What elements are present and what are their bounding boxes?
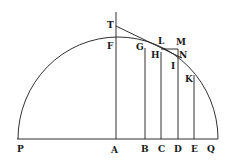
label-A: A: [110, 145, 119, 155]
label-T: T: [107, 20, 114, 30]
label-E: E: [191, 144, 198, 154]
label-I: I: [171, 61, 175, 71]
label-Q: Q: [207, 144, 215, 154]
label-F: F: [107, 41, 114, 51]
tangent-line-TN: [116, 26, 182, 58]
label-B: B: [141, 144, 149, 154]
label-C: C: [158, 144, 165, 154]
label-K: K: [185, 74, 194, 84]
label-N: N: [179, 50, 187, 60]
geometry-diagram: T F G L M H N I K P A B C D E Q: [0, 0, 229, 163]
label-M: M: [176, 37, 186, 47]
label-P: P: [17, 144, 24, 154]
label-L: L: [158, 36, 165, 46]
label-H: H: [151, 50, 160, 60]
semi-ellipse-curve: [18, 37, 218, 139]
label-G: G: [136, 42, 144, 52]
label-D: D: [174, 144, 182, 154]
